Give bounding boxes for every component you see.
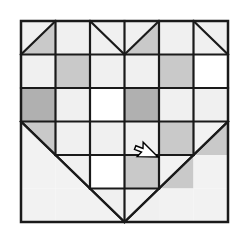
cell-r2c3 [90,55,125,89]
cell-r2c6 [194,55,229,89]
cell-r2c4 [125,55,160,89]
cell-r6c5 [159,189,194,223]
cell-r5c1 [21,155,56,189]
cell-r2c2 [56,55,91,89]
cell-r6c1 [21,189,56,223]
cell-r3c6 [194,88,229,122]
cell-r6c2 [56,189,91,223]
cell-r5c4 [125,155,160,189]
cell-r3c5 [159,88,194,122]
cell-r5c6 [194,155,229,189]
quilt-svg-canvas [0,0,245,235]
cell-r4c5 [159,122,194,156]
cell-r4c3 [90,122,125,156]
cell-r1c5 [159,21,194,55]
cell-r5c3 [90,155,125,189]
cell-r6c6 [194,189,229,223]
cell-r2c1 [21,55,56,89]
quilt-block-diagram [0,0,245,235]
cell-r2c5 [159,55,194,89]
cell-r3c1 [21,88,56,122]
cell-r4c2 [56,122,91,156]
cell-r3c2 [56,88,91,122]
cell-r3c4 [125,88,160,122]
cell-r4c4 [125,122,160,156]
cell-r1c2 [56,21,91,55]
cell-r3c3 [90,88,125,122]
